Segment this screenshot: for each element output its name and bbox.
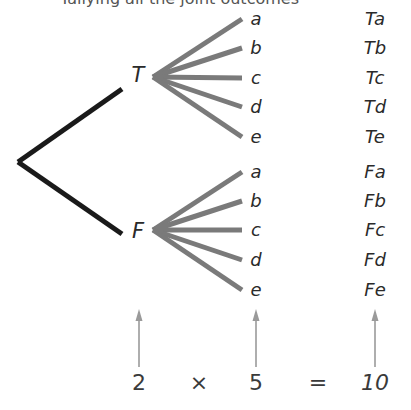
outcome-Td: Td	[364, 96, 387, 117]
leaf-label-b: b	[250, 190, 261, 211]
second-stage-branch-Tb	[153, 48, 242, 77]
second-stage-branch-Fb	[153, 201, 242, 230]
node-label-T: T	[132, 63, 147, 87]
equation-second-factor: 5	[249, 370, 263, 395]
second-stage-branch-Fd	[153, 230, 242, 260]
leaf-label-a: a	[250, 8, 261, 29]
outcome-Fb: Fb	[364, 190, 386, 211]
outcome-Fe: Fe	[364, 279, 385, 300]
first-stage-branch-T	[18, 89, 122, 162]
second-stage-branch-Ta	[153, 19, 242, 77]
leaf-label-c: c	[251, 67, 261, 88]
outcome-Ta: Ta	[365, 8, 385, 29]
leaf-label-e: e	[250, 279, 261, 300]
tree-diagram: TaTabTbcTcdTdeTeFaFabFbcFcdFdeFe 2 × 5 =…	[0, 0, 411, 410]
node-labels: TaTabTbcTcdTdeTeFaFabFbcFcdFdeFe	[132, 8, 387, 300]
equation-result: 10	[361, 370, 389, 395]
leaf-label-b: b	[250, 37, 261, 58]
outcome-Te: Te	[365, 126, 385, 147]
leaf-label-c: c	[251, 219, 261, 240]
second-stage-branch-Fa	[153, 172, 242, 230]
arrowhead-icon	[253, 309, 260, 321]
second-stage-branch-Td	[153, 77, 242, 107]
second-stage-branch-Tc	[153, 77, 242, 78]
second-stage-branch-Fe	[153, 230, 242, 290]
leaf-label-d: d	[250, 96, 262, 117]
second-stage-branches	[153, 19, 242, 290]
outcome-Fc: Fc	[365, 219, 385, 240]
outcome-Fa: Fa	[364, 161, 385, 182]
leaf-label-a: a	[250, 161, 261, 182]
outcome-Fd: Fd	[364, 249, 386, 270]
equation-first-factor: 2	[132, 370, 146, 395]
first-stage-branches	[18, 89, 122, 234]
equation-equals-sign: =	[309, 370, 327, 395]
multiplication-equation: 2 × 5 = 10	[132, 370, 389, 395]
equation-times-sign: ×	[190, 370, 208, 395]
leaf-label-d: d	[250, 249, 262, 270]
arrowhead-icon	[136, 309, 143, 321]
first-stage-branch-F	[18, 162, 122, 234]
arrowhead-icon	[372, 309, 379, 321]
node-label-F: F	[132, 219, 145, 243]
outcome-Tc: Tc	[366, 67, 385, 88]
outcome-Tb: Tb	[364, 37, 386, 58]
leaf-label-e: e	[250, 126, 261, 147]
count-arrows	[136, 309, 379, 367]
second-stage-branch-Te	[153, 77, 242, 137]
